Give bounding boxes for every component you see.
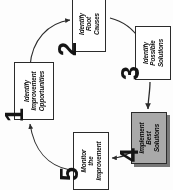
process-cycle-diagram: IdentifyImprovementOpportunities 1 Ident… xyxy=(0,0,173,190)
step-3-label: IdentifyPossibleSolutions xyxy=(142,39,164,67)
step-number-3: 3 xyxy=(118,54,144,80)
step-number-1: 1 xyxy=(2,96,28,122)
step-2-label: IdentifyRootCauses xyxy=(78,13,100,35)
step-number-4: 4 xyxy=(117,136,143,162)
step-number-2: 2 xyxy=(55,30,81,56)
step-5-label: MonitortheImprovement xyxy=(80,141,102,180)
connector-3-to-4 xyxy=(148,82,150,109)
step-number-5: 5 xyxy=(57,155,83,181)
